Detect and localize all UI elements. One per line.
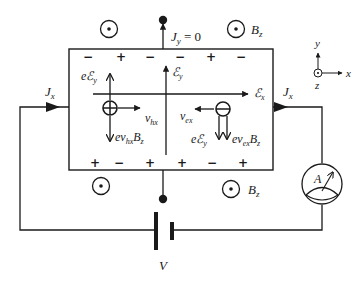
probe-terminal-top bbox=[159, 16, 167, 24]
top-charge: − bbox=[175, 50, 185, 64]
jx-label-left: Jx bbox=[45, 84, 55, 101]
semiconductor-sample bbox=[69, 49, 273, 170]
top-surface-charges: − + − − + − bbox=[83, 50, 246, 64]
axis-x-label: x bbox=[345, 67, 351, 79]
bottom-charge: + bbox=[90, 156, 100, 170]
top-probe: Jy = 0 bbox=[159, 16, 201, 49]
top-charge: − bbox=[236, 50, 246, 64]
bz-label-bottom: Bz bbox=[248, 182, 260, 199]
jy-label: Jy = 0 bbox=[171, 29, 201, 46]
electron-velocity-label: vex bbox=[180, 109, 193, 125]
bottom-charge: + bbox=[145, 156, 155, 170]
hall-effect-diagram: − + − − + − + − + + − + Jy = 0 Bz Bz bbox=[0, 0, 363, 283]
hole-carrier: eℰy vhx evhxBz bbox=[81, 69, 158, 146]
bz-symbol-bottom-left bbox=[93, 178, 110, 195]
bottom-charge: − bbox=[207, 156, 217, 170]
bottom-charge: − bbox=[114, 156, 124, 170]
applied-field-ex: ℰx bbox=[93, 86, 265, 102]
bottom-surface-charges: + − + + − + bbox=[90, 156, 248, 170]
bz-symbol-top-left bbox=[101, 21, 118, 38]
circuit-wiring bbox=[20, 107, 322, 230]
hole-electric-force-label: eℰy bbox=[81, 69, 97, 85]
bottom-probe bbox=[159, 170, 167, 203]
top-charge: + bbox=[206, 50, 216, 64]
bz-label-top: Bz bbox=[251, 22, 263, 39]
battery: V bbox=[154, 212, 174, 273]
bz-symbol-bottom-right: Bz bbox=[223, 181, 260, 200]
top-charge: − bbox=[145, 50, 155, 64]
electron-lorentz-force-label: evexBz bbox=[232, 132, 261, 148]
electron-electric-force-label: eℰy bbox=[191, 132, 207, 148]
hole-lorentz-force-label: evhxBz bbox=[115, 130, 145, 146]
ammeter-label: A bbox=[313, 172, 322, 186]
ammeter: A bbox=[302, 164, 342, 204]
ey-field-label: ℰy bbox=[172, 65, 183, 81]
jx-arrow-right bbox=[274, 102, 288, 112]
ex-field-label: ℰx bbox=[254, 86, 265, 102]
top-charge: + bbox=[116, 50, 126, 64]
bottom-charge: + bbox=[238, 156, 248, 170]
bottom-charge: + bbox=[177, 156, 187, 170]
coordinate-axes: y x z bbox=[314, 37, 351, 91]
battery-long-plate bbox=[154, 212, 158, 250]
axis-z-label: z bbox=[314, 79, 320, 91]
probe-terminal-bottom bbox=[159, 195, 167, 203]
jx-label-right: Jx bbox=[283, 84, 293, 101]
axis-y-label: y bbox=[314, 37, 320, 49]
electron-carrier: vex eℰy evexBz bbox=[180, 102, 261, 148]
jx-arrow-left bbox=[46, 102, 60, 112]
bz-symbol-top-right: Bz bbox=[228, 21, 263, 40]
voltage-label: V bbox=[159, 258, 169, 273]
top-charge: − bbox=[83, 50, 93, 64]
hole-velocity-label: vhx bbox=[145, 111, 158, 127]
battery-short-plate bbox=[170, 222, 174, 240]
